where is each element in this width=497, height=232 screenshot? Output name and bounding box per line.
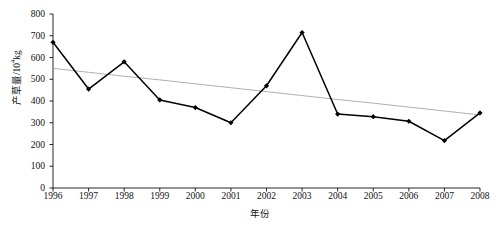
x-tick-label: 2007 — [424, 191, 464, 202]
data-point-marker — [335, 111, 340, 116]
x-tick-label: 2005 — [353, 191, 393, 202]
x-tick-label: 2001 — [211, 191, 251, 202]
x-tick-label: 1998 — [104, 191, 144, 202]
x-tick-label: 2000 — [175, 191, 215, 202]
x-tick-label: 2002 — [247, 191, 287, 202]
x-tick-label: 2006 — [389, 191, 429, 202]
grass-yield-line-chart: 产草量/104kg 年份 0100200300400500600700800 1… — [0, 0, 497, 232]
trend-line — [53, 68, 480, 115]
data-point-marker — [371, 114, 376, 119]
y-tick-label: 800 — [17, 9, 45, 19]
x-tick-label: 2003 — [282, 191, 322, 202]
y-tick-marks — [50, 14, 54, 188]
x-tick-label: 2008 — [460, 191, 497, 202]
axes-lines — [53, 14, 480, 188]
data-point-marker — [193, 105, 198, 110]
y-tick-label: 600 — [17, 53, 45, 63]
trend-line-path — [53, 68, 480, 115]
y-tick-label: 100 — [17, 161, 45, 171]
x-tick-label: 2004 — [318, 191, 358, 202]
x-tick-label: 1997 — [69, 191, 109, 202]
x-tick-label: 1996 — [33, 191, 73, 202]
y-tick-label: 500 — [17, 74, 45, 84]
y-tick-label: 400 — [17, 96, 45, 106]
y-tick-label: 300 — [17, 118, 45, 128]
y-tick-label: 200 — [17, 140, 45, 150]
x-tick-label: 1999 — [140, 191, 180, 202]
y-tick-label: 700 — [17, 31, 45, 41]
